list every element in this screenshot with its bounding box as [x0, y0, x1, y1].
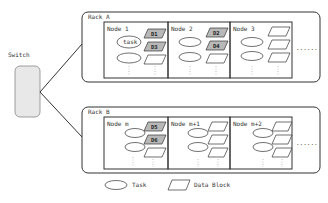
more-nodes-ellipsis: ...... [296, 44, 318, 51]
data-block-icon [206, 54, 228, 63]
data-block-icon [272, 135, 292, 144]
node-label: Node 2 [171, 25, 193, 32]
switch-icon [15, 66, 40, 117]
task-icon [125, 129, 145, 138]
link-rack-b [40, 92, 82, 137]
task-icon [188, 129, 208, 138]
block-label: D3 [151, 44, 158, 50]
more-nodes-ellipsis: ...... [296, 139, 318, 146]
node-1: Node 1 task D1 D3 [104, 22, 168, 78]
data-block-icon [144, 148, 166, 157]
rack-b-label: Rack B [88, 108, 110, 115]
task-label: task [123, 38, 138, 45]
node-m-plus-2: Node m+2 [230, 117, 292, 169]
rack-topology-diagram: Switch Rack A Node 1 task D1 D3 Node 2 [0, 0, 328, 203]
data-block-icon [144, 55, 166, 64]
data-block-icon [208, 122, 228, 131]
node-2: Node 2 D2 D4 [168, 22, 230, 78]
node-label: Node m+1 [171, 120, 200, 127]
block-label: D6 [151, 137, 158, 143]
rack-a: Rack A Node 1 task D1 D3 Node 2 D2 D4 [82, 12, 320, 82]
task-icon [125, 143, 145, 152]
block-label: D5 [151, 124, 158, 130]
data-block-icon [268, 40, 290, 49]
node-m: Node m D5 D6 [104, 117, 168, 169]
rack-a-label: Rack A [88, 13, 110, 20]
data-block-icon [208, 148, 228, 157]
block-label: D2 [213, 30, 220, 36]
node-label: Node 3 [233, 25, 255, 32]
node-label: Node 1 [107, 25, 129, 32]
legend-data-block-label: Data Block [194, 181, 231, 188]
data-block-icon [272, 148, 292, 157]
node-label: Node m+2 [233, 120, 262, 127]
data-block-icon [268, 27, 290, 36]
legend: Task Data Block [105, 180, 231, 190]
data-block-icon [208, 135, 228, 144]
node-label: Node m [107, 120, 129, 127]
task-icon [253, 129, 273, 138]
link-rack-a [40, 44, 82, 92]
switch-label: Switch [8, 51, 30, 58]
data-block-icon [272, 122, 292, 131]
legend-task-label: Task [132, 181, 147, 188]
node-3: Node 3 [230, 22, 292, 78]
task-icon [241, 52, 263, 61]
block-label: D1 [151, 31, 158, 37]
task-icon [188, 143, 208, 152]
rack-b: Rack B Node m D5 D6 Node m+1 [82, 107, 320, 173]
block-label: D4 [213, 43, 220, 49]
task-icon [241, 38, 263, 47]
task-icon [179, 53, 201, 62]
data-block-legend-icon [168, 180, 190, 190]
task-icon [117, 53, 141, 63]
task-legend-icon [105, 181, 127, 190]
node-m-plus-1: Node m+1 [168, 117, 230, 169]
task-icon [179, 38, 201, 47]
task-icon [253, 143, 273, 152]
data-block-icon [268, 53, 290, 62]
